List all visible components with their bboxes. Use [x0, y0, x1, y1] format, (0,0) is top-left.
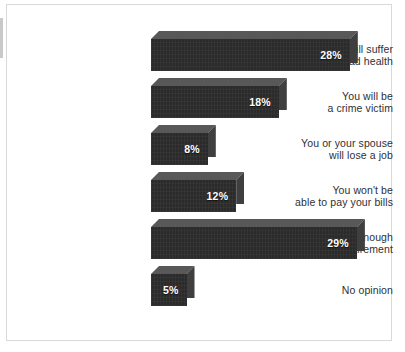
- bar: 29%: [151, 219, 365, 259]
- bar-value-label: 28%: [320, 39, 342, 71]
- bar-top-face: [151, 31, 358, 39]
- bar-row: You will suffer from bad health28%: [7, 31, 393, 71]
- bar-front-face: [151, 227, 357, 259]
- bar-category-label: No opinion: [255, 284, 393, 296]
- bar-value-label: 8%: [184, 133, 200, 165]
- bar-category-label: You won't be able to pay your bills: [255, 184, 393, 209]
- bar-value-label: 18%: [249, 86, 271, 118]
- bar: 28%: [151, 31, 358, 71]
- bar: 18%: [151, 78, 287, 118]
- bar-row: You or your spouse will lose a job8%: [7, 125, 393, 165]
- bar-value-label: 29%: [327, 227, 349, 259]
- bar-top-face: [151, 125, 216, 133]
- bar: 5%: [151, 266, 195, 306]
- bar-value-label: 12%: [207, 180, 229, 212]
- bar-top-face: [151, 172, 244, 180]
- bar-row: You won't have enough money for retireme…: [7, 219, 393, 259]
- bar-value-label: 5%: [163, 274, 179, 306]
- bar: 12%: [151, 172, 244, 212]
- bar-chart-plot-area: You will suffer from bad health28%You wi…: [7, 5, 393, 342]
- bar: 8%: [151, 125, 216, 165]
- bar-row: You will be a crime victim18%: [7, 78, 393, 118]
- scan-edge-strip: [0, 18, 3, 58]
- chart-frame: You will suffer from bad health28%You wi…: [6, 4, 392, 341]
- bar-top-face: [151, 219, 365, 227]
- bar-row: No opinion5%: [7, 266, 393, 306]
- bar-top-face: [151, 78, 287, 86]
- bar-category-label: You or your spouse will lose a job: [255, 137, 393, 162]
- bar-row: You won't be able to pay your bills12%: [7, 172, 393, 212]
